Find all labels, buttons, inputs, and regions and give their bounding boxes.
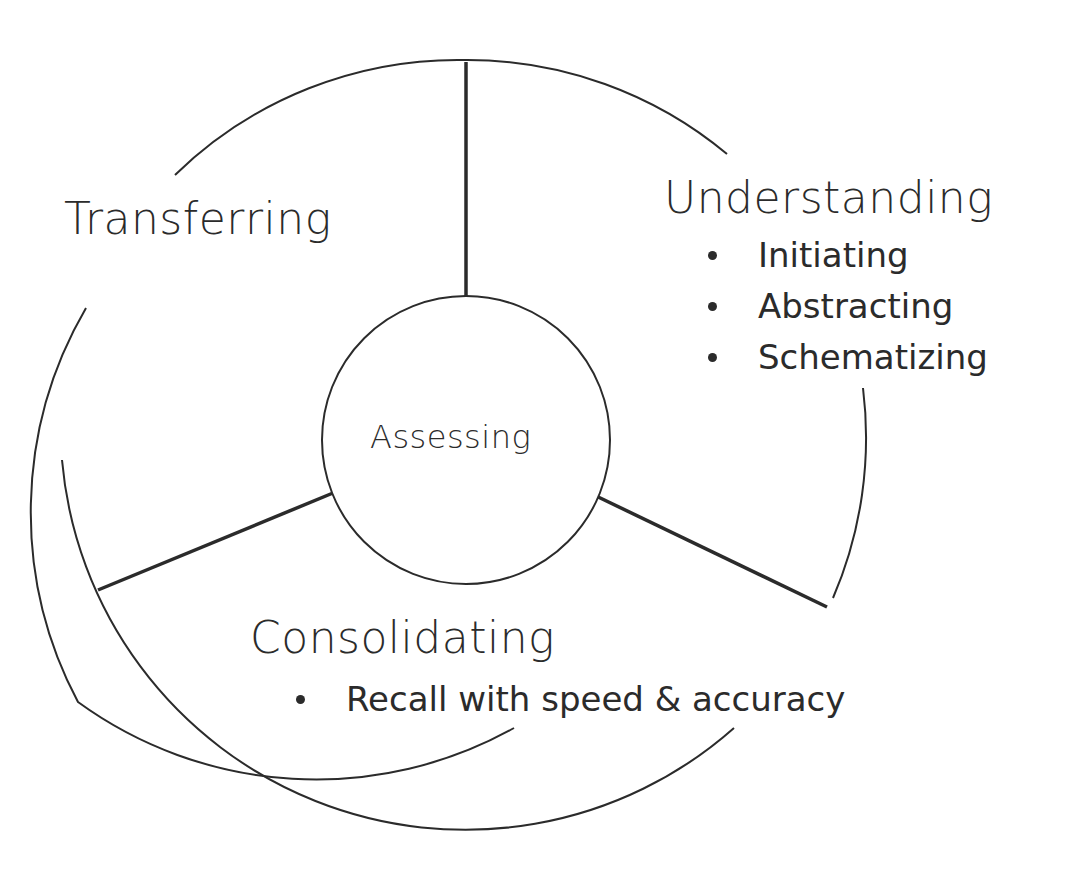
- list-item: Abstracting: [708, 281, 988, 332]
- segment-title-understanding: Understanding: [664, 172, 993, 223]
- segment-title-consolidating: Consolidating: [250, 612, 555, 663]
- bullet-icon: [708, 353, 717, 362]
- bullet-icon: [708, 251, 717, 260]
- segment-title-transferring: Transferring: [64, 193, 332, 244]
- divider-right: [594, 495, 827, 607]
- bullet-icon: [296, 695, 305, 704]
- understanding-list: Initiating Abstracting Schematizing: [708, 230, 988, 383]
- cycle-diagram: [0, 0, 1087, 872]
- outer-arc-top-right: [466, 60, 727, 154]
- divider-left: [98, 493, 333, 590]
- center-label: Assessing: [370, 418, 531, 456]
- list-item: Initiating: [708, 230, 988, 281]
- outer-arc-top-left: [175, 60, 466, 175]
- list-item: Schematizing: [708, 332, 988, 383]
- list-item: Recall with speed & accuracy: [296, 674, 845, 725]
- consolidating-list: Recall with speed & accuracy: [296, 674, 845, 725]
- bullet-icon: [708, 302, 717, 311]
- outer-arc-right: [833, 388, 866, 598]
